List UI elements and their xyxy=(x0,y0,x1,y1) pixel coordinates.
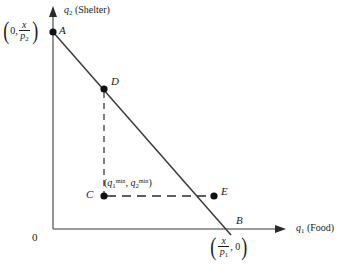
fraction-x-over-p1: x p1 xyxy=(218,236,229,259)
figure-canvas xyxy=(0,0,342,265)
x-axis-label: q1 (Food) xyxy=(296,223,334,235)
point-marker-c xyxy=(100,192,107,199)
point-a-coordinate: ( 0, x p2 ) xyxy=(2,20,39,43)
point-label-e: E xyxy=(221,186,228,197)
point-label-d: D xyxy=(111,76,119,87)
y-axis xyxy=(49,6,57,229)
left-paren: ( xyxy=(3,21,9,42)
point-b-coordinate: ( x p1 , 0 ) xyxy=(209,236,249,259)
point-label-b: B xyxy=(236,215,243,226)
x-axis-label-name: (Food) xyxy=(307,222,334,233)
y-axis-label: q2 (Shelter) xyxy=(64,5,110,17)
point-label-a: A xyxy=(59,25,66,36)
fraction-x-over-p2: x p2 xyxy=(19,20,30,43)
point-marker-a xyxy=(49,28,56,35)
right-paren: ) xyxy=(241,237,247,258)
budget-constraint-figure: q2 (Shelter) q1 (Food) 0 A ( 0, x p2 ) D… xyxy=(0,0,342,265)
point-label-c: C xyxy=(86,189,93,200)
point-marker-d xyxy=(100,85,107,92)
left-paren: ( xyxy=(210,237,216,258)
y-axis-label-name: (Shelter) xyxy=(75,4,110,15)
budget-line xyxy=(53,32,231,235)
point-c-coordinate: (q1min, q2min) xyxy=(104,178,152,190)
x-axis xyxy=(53,225,286,233)
point-marker-e xyxy=(210,192,217,199)
right-paren: ) xyxy=(32,21,38,42)
origin-label: 0 xyxy=(32,232,38,243)
